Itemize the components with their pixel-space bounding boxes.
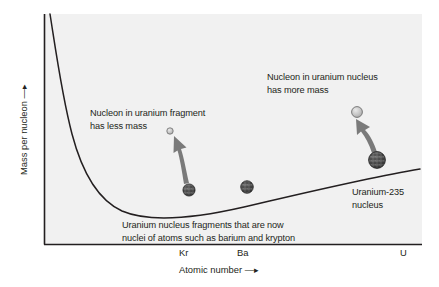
x-tick-label-kr: Kr <box>179 247 188 258</box>
y-axis-arrow-icon: —▸ <box>18 84 29 101</box>
binding-energy-curve-figure: Mass per nucleon —▸ Nucleon in uranium f… <box>0 0 439 287</box>
barium-nucleus-marker <box>241 181 254 194</box>
annotation-fragment-nucleon: Nucleon in uranium fragment has less mas… <box>90 107 205 132</box>
x-axis-title: Atomic number —▸ <box>179 264 259 275</box>
annotation-uranium-nucleon: Nucleon in uranium nucleus has more mass <box>267 71 378 96</box>
annotation-fragments-caption: Uranium nucleus fragments that are now n… <box>122 219 295 244</box>
x-axis-arrow-icon: —▸ <box>242 264 259 275</box>
annotation-u235-nucleus: Uranium-235 nucleus <box>352 186 404 211</box>
y-axis-title: Mass per nucleon —▸ <box>18 65 29 195</box>
x-tick-label-ba: Ba <box>237 247 248 258</box>
uranium-nucleon-circle <box>352 107 363 118</box>
x-tick-label-u: U <box>400 247 407 258</box>
x-axis-title-text: Atomic number <box>179 264 242 275</box>
y-axis-title-text: Mass per nucleon <box>18 101 29 175</box>
uranium-235-nucleus-marker <box>369 152 386 169</box>
krypton-nucleus-marker <box>183 184 195 196</box>
